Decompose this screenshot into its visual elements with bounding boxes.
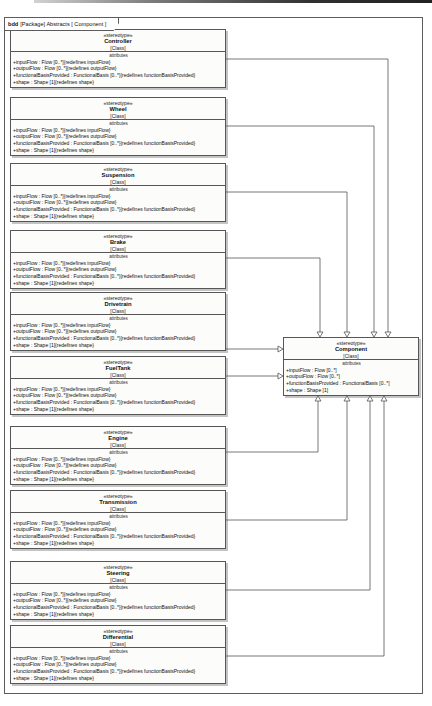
attribute-line: +functionalBasisProvided : FunctionalBas… [13, 140, 224, 147]
class-box-wheel[interactable]: «stereotype»Wheel[Class]attributes+input… [10, 97, 226, 156]
attribute-line: +inputFlow : Flow [0..*]{redefines input… [13, 59, 224, 66]
class-name: Component [284, 346, 418, 353]
class-name-compartment: «stereotype»Engine[Class] [11, 427, 225, 449]
class-name: Suspension [11, 172, 225, 179]
class-box-component[interactable]: «stereotype»Component[Class]attributes+i… [283, 337, 419, 396]
class-name-compartment: «stereotype»Wheel[Class] [11, 98, 225, 120]
attribute-line: +shape : Shape [1]{redefines shape} [13, 147, 224, 154]
classifier-label: [Class] [11, 308, 225, 314]
attributes-compartment: attributes+inputFlow : Flow [0..*]{redef… [11, 315, 225, 349]
attribute-line: +functionalBasisProvided : FunctionalBas… [13, 533, 224, 540]
class-name-compartment: «stereotype»Transmission[Class] [11, 491, 225, 513]
attribute-line: +functionalBasisProvided : FunctionalBas… [13, 469, 224, 476]
class-name: Controller [11, 38, 225, 45]
attribute-line: +inputFlow : Flow [0..*]{redefines input… [13, 520, 224, 527]
attribute-line: +outputFlow : Flow [0..*]{redefines outp… [13, 133, 224, 140]
attribute-line: +inputFlow : Flow [0..*]{redefines input… [13, 591, 224, 598]
class-name: Engine [11, 435, 225, 442]
class-name-compartment: «stereotype»Drivetrain[Class] [11, 293, 225, 315]
class-box-suspension[interactable]: «stereotype»Suspension[Class]attributes+… [10, 163, 226, 222]
attribute-line: +shape : Shape [1]{redefines shape} [13, 611, 224, 618]
attribute-line: +outputFlow : Flow [0..*]{redefines outp… [13, 597, 224, 604]
classifier-label: [Class] [11, 506, 225, 512]
attribute-line: +inputFlow : Flow [0..*]{redefines input… [13, 655, 224, 662]
attributes-compartment: attributes+inputFlow : Flow [0..*]{redef… [11, 648, 225, 682]
class-name-compartment: «stereotype»Suspension[Class] [11, 164, 225, 186]
classifier-label: [Class] [11, 113, 225, 119]
attributes-compartment: attributes+inputFlow : Flow [0..*]{redef… [11, 513, 225, 547]
class-name: Wheel [11, 106, 225, 113]
attributes-compartment: attributes+inputFlow : Flow [0..*]{redef… [11, 253, 225, 287]
attribute-line: +inputFlow : Flow [0..*] [286, 367, 417, 374]
diagram-kind-label: bdd [8, 21, 18, 27]
attribute-line: +inputFlow : Flow [0..*]{redefines input… [13, 127, 224, 134]
attributes-compartment: attributes+inputFlow : Flow [0..*]{redef… [11, 379, 225, 413]
attribute-line: +shape : Shape [1]{redefines shape} [13, 342, 224, 349]
attributes-compartment: attributes+inputFlow : Flow [0..*]{redef… [11, 584, 225, 618]
class-box-brake[interactable]: «stereotype»Brake[Class]attributes+input… [10, 230, 226, 289]
classifier-label: [Class] [11, 641, 225, 647]
attribute-line: +functionalBasisProvided : FunctionalBas… [13, 668, 224, 675]
attributes-compartment: attributes+inputFlow : Flow [0..*]+outpu… [284, 360, 418, 394]
attribute-line: +outputFlow : Flow [0..*]{redefines outp… [13, 661, 224, 668]
class-name: FuelTank [11, 365, 225, 372]
class-name: Steering [11, 570, 225, 577]
class-name-compartment: «stereotype»Component[Class] [284, 338, 418, 360]
class-name: Drivetrain [11, 301, 225, 308]
class-box-transmission[interactable]: «stereotype»Transmission[Class]attribute… [10, 490, 226, 549]
diagram-frame-header[interactable]: bdd[Package] Abstracts [ Component ] [4, 17, 119, 31]
attribute-line: +shape : Shape [1]{redefines shape} [13, 280, 224, 287]
attribute-line: +outputFlow : Flow [0..*]{redefines outp… [13, 65, 224, 72]
class-name: Brake [11, 239, 225, 246]
class-box-steering[interactable]: «stereotype»Steering[Class]attributes+in… [10, 561, 226, 620]
classifier-label: [Class] [11, 246, 225, 252]
class-box-drivetrain[interactable]: «stereotype»Drivetrain[Class]attributes+… [10, 292, 226, 351]
attribute-line: +outputFlow : Flow [0..*]{redefines outp… [13, 199, 224, 206]
classifier-label: [Class] [11, 442, 225, 448]
class-name-compartment: «stereotype»Brake[Class] [11, 231, 225, 253]
classifier-label: [Class] [284, 353, 418, 359]
attribute-line: +shape : Shape [1]{redefines shape} [13, 406, 224, 413]
attribute-line: +functionalBasisProvided : FunctionalBas… [13, 206, 224, 213]
attribute-line: +inputFlow : Flow [0..*]{redefines input… [13, 193, 224, 200]
classifier-label: [Class] [11, 372, 225, 378]
attribute-line: +shape : Shape [1]{redefines shape} [13, 79, 224, 86]
attribute-line: +functionalBasisProvided : FunctionalBas… [13, 335, 224, 342]
attribute-line: +inputFlow : Flow [0..*]{redefines input… [13, 386, 224, 393]
attribute-line: +shape : Shape [1] [286, 387, 417, 394]
attribute-line: +shape : Shape [1]{redefines shape} [13, 213, 224, 220]
attribute-line: +functionBasisProvided : FunctionalBasis… [286, 380, 417, 387]
class-box-fueltank[interactable]: «stereotype»FuelTank[Class]attributes+in… [10, 356, 226, 415]
attribute-line: +shape : Shape [1]{redefines shape} [13, 476, 224, 483]
class-box-differential[interactable]: «stereotype»Differential[Class]attribute… [10, 625, 226, 684]
attribute-line: +outputFlow : Flow [0..*]{redefines outp… [13, 328, 224, 335]
class-box-controller[interactable]: «stereotype»Controller[Class]attributes+… [10, 29, 226, 88]
class-name-compartment: «stereotype»FuelTank[Class] [11, 357, 225, 379]
classifier-label: [Class] [11, 179, 225, 185]
classifier-label: [Class] [11, 577, 225, 583]
attribute-line: +outputFlow : Flow [0..*]{redefines outp… [13, 462, 224, 469]
attribute-line: +outputFlow : Flow [0..*]{redefines outp… [13, 266, 224, 273]
window-edge-bar [34, 0, 432, 3]
attribute-line: +outputFlow : Flow [0..*]{redefines outp… [13, 392, 224, 399]
attribute-line: +functionalBasisProvided : FunctionalBas… [13, 72, 224, 79]
classifier-label: [Class] [11, 45, 225, 51]
attribute-line: +shape : Shape [1]{redefines shape} [13, 540, 224, 547]
attribute-line: +functionalBasisProvided : FunctionalBas… [13, 273, 224, 280]
attribute-line: +inputFlow : Flow [0..*]{redefines input… [13, 260, 224, 267]
attribute-line: +functionalBasisProvided : FunctionalBas… [13, 604, 224, 611]
attribute-line: +shape : Shape [1]{redefines shape} [13, 675, 224, 682]
class-name: Differential [11, 634, 225, 641]
attributes-compartment: attributes+inputFlow : Flow [0..*]{redef… [11, 52, 225, 86]
attributes-compartment: attributes+inputFlow : Flow [0..*]{redef… [11, 449, 225, 483]
attributes-compartment: attributes+inputFlow : Flow [0..*]{redef… [11, 120, 225, 154]
class-name-compartment: «stereotype»Differential[Class] [11, 626, 225, 648]
diagram-canvas: bdd[Package] Abstracts [ Component ] «st… [0, 0, 432, 706]
attributes-compartment: attributes+inputFlow : Flow [0..*]{redef… [11, 186, 225, 220]
attribute-line: +outputFlow : Flow [0..*] [286, 373, 417, 380]
class-name-compartment: «stereotype»Controller[Class] [11, 30, 225, 52]
diagram-title: [Package] Abstracts [ Component ] [20, 21, 106, 27]
attribute-line: +inputFlow : Flow [0..*]{redefines input… [13, 322, 224, 329]
attribute-line: +functionalBasisProvided : FunctionalBas… [13, 399, 224, 406]
class-box-engine[interactable]: «stereotype»Engine[Class]attributes+inpu… [10, 426, 226, 485]
